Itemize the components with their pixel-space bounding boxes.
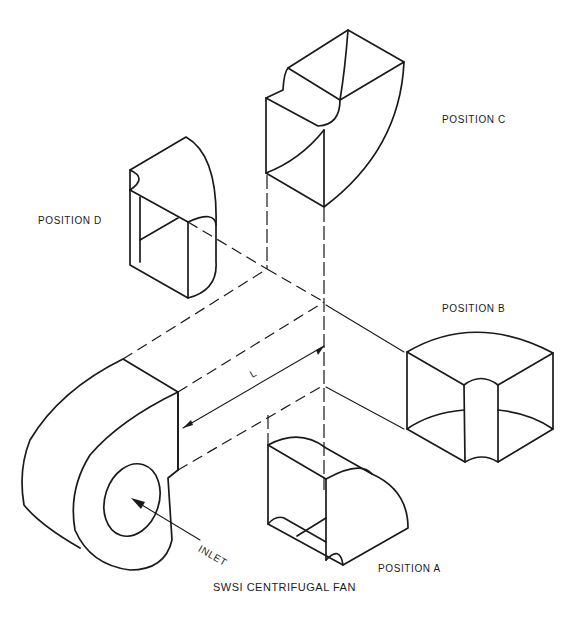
elbow-position-d xyxy=(130,137,216,298)
label-position-c: POSITION C xyxy=(442,114,506,125)
elbow-position-c xyxy=(266,30,404,207)
label-position-d: POSITION D xyxy=(38,215,102,226)
fan-housing xyxy=(22,359,200,570)
projection-lines xyxy=(123,175,404,490)
label-position-a: POSITION A xyxy=(378,563,441,574)
inlet-arrow-icon xyxy=(131,498,145,509)
diagram-title: SWSI CENTRIFUGAL FAN xyxy=(213,581,356,593)
dimension-line-l xyxy=(183,346,324,428)
elbow-position-a xyxy=(268,437,408,565)
fan-elbow-position-diagram: POSITION C POSITION D POSITION B POSITIO… xyxy=(0,0,580,620)
elbow-position-b xyxy=(407,332,553,462)
inlet-opening xyxy=(95,456,169,543)
label-position-b: POSITION B xyxy=(442,303,505,314)
